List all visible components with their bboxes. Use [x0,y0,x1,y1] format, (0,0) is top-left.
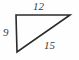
hypotenuse-length-label: 15 [44,40,55,51]
top-side-length-label: 12 [33,1,44,12]
left-side-length-label: 9 [3,27,9,38]
triangle-figure: 12 9 15 [0,0,79,60]
triangle-outline [16,15,70,52]
